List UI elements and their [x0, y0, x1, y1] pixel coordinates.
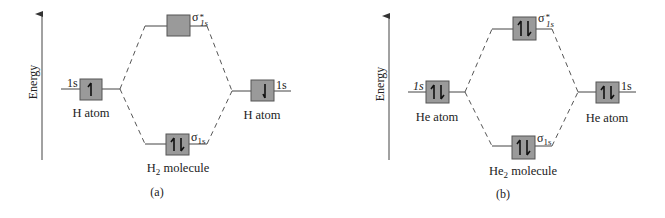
orbital-label: 1s — [413, 79, 424, 93]
bonding-orbital: σ1s — [492, 131, 552, 159]
left-atom-orbital: 1s H atom — [61, 76, 120, 120]
correlation-line — [120, 89, 145, 144]
antibonding-orbital: σ*1s — [145, 10, 208, 36]
antibonding-label: σ*1s — [192, 10, 208, 28]
correlation-line — [465, 92, 492, 146]
atom-label: He atom — [416, 110, 459, 124]
panel-caption: (b) — [496, 187, 510, 201]
antibonding-label: σ*1s — [538, 11, 554, 29]
orbital-box — [251, 80, 274, 101]
orbital-box — [426, 81, 449, 103]
orbital-label: 1s — [621, 79, 632, 93]
atom-label: H atom — [243, 108, 280, 122]
energy-axis-label: Energy — [26, 65, 40, 99]
bonding-label: σ1s — [191, 130, 206, 146]
orbital-box — [596, 82, 619, 103]
panel-a: Energy 1s H atom σ*1s σ1s 1 — [26, 10, 291, 199]
correlation-line — [207, 26, 232, 91]
panel-b: Energy 1s He atom σ*1s σ1s — [373, 11, 636, 201]
orbital-box — [167, 15, 190, 36]
right-atom-orbital: 1s H atom — [232, 78, 291, 122]
bonding-label: σ1s — [537, 131, 552, 147]
mo-diagram: Energy 1s H atom σ*1s σ1s 1 — [0, 0, 665, 218]
panel-caption: (a) — [150, 185, 163, 199]
orbital-label: 1s — [67, 76, 78, 90]
orbital-label: 1s — [276, 78, 287, 92]
correlation-line — [207, 91, 232, 144]
left-atom-orbital: 1s He atom — [408, 79, 465, 124]
correlation-line — [552, 92, 578, 146]
orbital-box — [513, 17, 536, 40]
molecule-label: He2 molecule — [489, 164, 557, 180]
energy-axis-label: Energy — [373, 67, 387, 101]
molecule-label: H2 molecule — [147, 161, 210, 177]
orbital-box — [166, 134, 189, 155]
correlation-line — [465, 29, 492, 92]
bonding-orbital: σ1s — [145, 130, 207, 155]
correlation-line — [552, 29, 578, 92]
antibonding-orbital: σ*1s — [492, 11, 554, 40]
correlation-line — [120, 26, 145, 89]
right-atom-orbital: 1s He atom — [578, 79, 636, 125]
atom-label: He atom — [586, 111, 629, 125]
atom-label: H atom — [72, 106, 109, 120]
orbital-box — [512, 136, 535, 159]
